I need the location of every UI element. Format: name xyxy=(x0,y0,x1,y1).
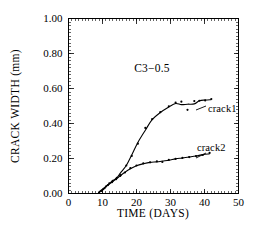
x-axis-tick-labels: 01020304050 xyxy=(66,196,245,208)
data-point xyxy=(161,161,163,163)
x-tick-label: 0 xyxy=(66,196,72,208)
y-axis-tick-labels: 0.000.200.400.600.801.00 xyxy=(43,12,63,199)
data-point xyxy=(204,99,206,101)
data-point xyxy=(135,164,137,166)
series-label-crack1: crack1 xyxy=(196,103,237,114)
series-crack2-line xyxy=(99,154,210,192)
series-label-crack1-text: crack1 xyxy=(208,103,237,114)
data-point xyxy=(129,167,131,169)
data-point xyxy=(156,160,158,162)
data-point xyxy=(131,155,133,157)
series-label-crack2: crack2 xyxy=(196,142,226,158)
data-series-group xyxy=(98,98,212,194)
data-point xyxy=(151,118,153,120)
y-tick-label: 0.60 xyxy=(43,82,63,94)
data-point xyxy=(186,109,188,111)
data-point xyxy=(125,164,127,166)
data-point xyxy=(107,184,109,186)
series-crack2 xyxy=(98,152,211,194)
data-point xyxy=(98,192,100,194)
x-axis-label: TIME (DAYS) xyxy=(117,207,189,220)
data-point xyxy=(195,155,197,157)
data-point xyxy=(188,156,190,158)
x-tick-label: 30 xyxy=(165,196,177,208)
y-tick-label: 1.00 xyxy=(43,12,63,24)
data-point xyxy=(124,171,126,173)
data-point xyxy=(180,101,182,103)
data-point xyxy=(103,187,105,189)
data-point xyxy=(101,189,103,191)
y-tick-label: 0.20 xyxy=(43,152,63,164)
y-axis-label: CRACK WIDTH (mm) xyxy=(9,49,22,163)
data-point xyxy=(115,178,117,180)
data-point xyxy=(159,111,161,113)
data-point xyxy=(168,105,170,107)
data-point xyxy=(149,161,151,163)
data-point xyxy=(193,100,195,102)
y-tick-label: 0.00 xyxy=(43,187,63,199)
data-point xyxy=(111,181,113,183)
chart-annotation: C3−0.5 xyxy=(134,62,170,74)
data-point xyxy=(210,98,212,100)
data-point xyxy=(119,175,121,177)
data-point xyxy=(181,157,183,159)
data-point xyxy=(168,159,170,161)
data-point xyxy=(137,143,139,145)
x-tick-label: 40 xyxy=(199,196,211,208)
data-point xyxy=(175,158,177,160)
x-tick-label: 10 xyxy=(97,196,109,208)
x-tick-label: 50 xyxy=(233,196,245,208)
series-label-crack2-text: crack2 xyxy=(197,142,226,153)
chart-canvas: 01020304050 0.000.200.400.600.801.00 cra… xyxy=(0,0,257,235)
data-point xyxy=(198,100,200,102)
data-point xyxy=(175,101,177,103)
data-point xyxy=(144,127,146,129)
y-tick-label: 0.40 xyxy=(43,117,63,129)
chart-figure: 01020304050 0.000.200.400.600.801.00 cra… xyxy=(0,0,257,235)
x-tick-label: 20 xyxy=(131,196,143,208)
data-point xyxy=(142,162,144,164)
y-tick-label: 0.80 xyxy=(43,47,63,59)
